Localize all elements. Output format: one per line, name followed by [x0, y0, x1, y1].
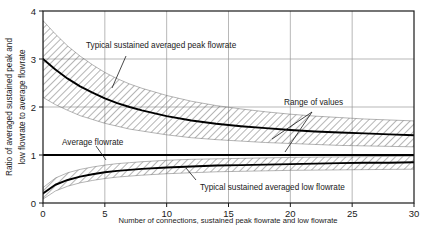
y-axis-title-line2: low flowrate to average flowrate	[18, 49, 27, 165]
y-axis-title-line1: Ratio of averaged sustained peak and	[5, 38, 14, 176]
y-tick-label: 2	[31, 102, 36, 113]
chart-figure: 051015202530 01234 Typical sustained ave…	[0, 0, 428, 225]
annotation-average-label: Average flowrate	[62, 138, 124, 147]
y-tick-label: 0	[31, 198, 36, 209]
x-tick-label: 30	[409, 208, 420, 219]
annotation-peak-label: Typical sustained averaged peak flowrate	[86, 41, 237, 50]
x-tick-label: 5	[102, 208, 107, 219]
annotation-low-label: Typical sustained averaged low flowrate	[200, 183, 345, 192]
x-tick-label: 0	[40, 208, 45, 219]
x-axis-title: Number of connections, sustained peak fl…	[118, 216, 337, 225]
flowrate-ratio-chart: 051015202530 01234 Typical sustained ave…	[0, 0, 428, 225]
y-tick-label: 3	[31, 54, 36, 65]
annotation-range-label: Range of values	[284, 98, 343, 107]
y-tick-label: 4	[31, 6, 36, 17]
y-tick-label: 1	[31, 150, 36, 161]
x-tick-label: 25	[347, 208, 358, 219]
